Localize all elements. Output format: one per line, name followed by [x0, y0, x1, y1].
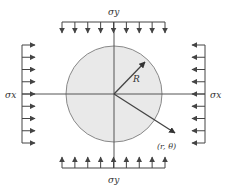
sigma-x-left-label: σx	[5, 90, 16, 100]
top-load-arrows	[62, 22, 165, 33]
left-load-arrows	[22, 45, 35, 143]
bottom-load-arrows	[62, 157, 165, 168]
sigma-y-top-label: σy	[108, 7, 120, 17]
radius-label: R	[132, 74, 140, 84]
sigma-y-bottom-label: σy	[108, 175, 120, 185]
sigma-x-right-label: σx	[210, 90, 221, 100]
stress-diagram: σy σy σx σx R (r, θ)	[0, 0, 230, 194]
point-label: (r, θ)	[157, 142, 176, 151]
right-load-arrows	[192, 45, 205, 143]
